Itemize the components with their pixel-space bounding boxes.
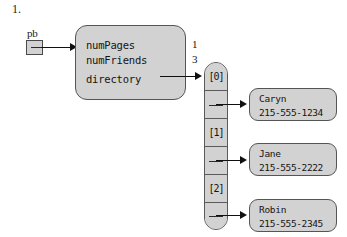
array-cell-index-2: [2] (205, 175, 227, 203)
arrow-directory-to-array-head (195, 72, 202, 80)
array-cell-index-1: [1] (205, 119, 227, 147)
entry-name-2: Robin (259, 204, 286, 215)
array-index-label-2: [2] (205, 184, 227, 194)
array-pointer-stub-2 (209, 216, 223, 217)
array-index-label-0: [0] (205, 72, 227, 82)
entry-phone-0: 215-555-1234 (259, 107, 323, 118)
entry-phone-1: 215-555-2222 (259, 162, 323, 173)
pointer-variable-label: pb (27, 27, 37, 39)
array-cell-index-0: [0] (205, 63, 227, 91)
pointer-variable-stub (31, 47, 41, 48)
arrow-slot0-to-entry0-line (216, 104, 241, 105)
array-cell-pointer-2 (205, 203, 227, 229)
entry-box-1: Jane 215-555-2222 (249, 143, 337, 176)
object-field-numfriends: numFriends (86, 54, 147, 66)
array-container: [0] [1] [2] (204, 62, 228, 230)
object-field-numpages: numPages (86, 39, 135, 51)
arrow-slot2-to-entry2-line (216, 215, 241, 216)
arrow-slot0-to-entry0-head (240, 100, 247, 108)
arrow-pb-to-object-line (41, 47, 71, 48)
item-number: 1. (12, 2, 21, 17)
object-value-numfriends: 3 (192, 53, 198, 65)
object-field-directory: directory (86, 73, 141, 85)
array-index-label-1: [1] (205, 128, 227, 138)
arrow-slot1-to-entry1-head (240, 156, 247, 164)
array-cell-pointer-1 (205, 147, 227, 175)
arrow-slot1-to-entry1-line (216, 160, 241, 161)
entry-phone-2: 215-555-2345 (259, 218, 323, 229)
diagram-canvas: 1. pb numPages numFriends directory 1 3 … (0, 0, 347, 237)
entry-box-0: Caryn 215-555-1234 (249, 88, 337, 121)
object-value-numpages: 1 (192, 38, 198, 50)
entry-name-0: Caryn (259, 93, 286, 104)
entry-name-1: Jane (259, 148, 281, 159)
entry-box-2: Robin 215-555-2345 (249, 199, 337, 232)
array-cell-pointer-0 (205, 91, 227, 119)
arrow-slot2-to-entry2-head (240, 211, 247, 219)
arrow-directory-to-array-line (160, 76, 196, 77)
